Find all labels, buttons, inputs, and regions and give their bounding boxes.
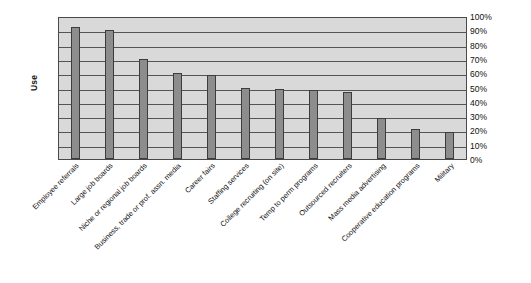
bar-chart: Use 100%90%80%70%60%50%40%30%20%10%0% Em… [0, 0, 531, 283]
bar-slot [296, 18, 330, 159]
bar [71, 27, 80, 159]
y-axis-tick-label: 60% [470, 70, 487, 79]
y-axis-tick-label: 10% [470, 141, 487, 150]
y-axis-tick-label: 70% [470, 55, 487, 64]
bar-slot [263, 18, 297, 159]
x-axis-category-labels: Employee referralsLarge job boardsNiche … [58, 162, 467, 280]
y-axis-tick-label: 80% [470, 41, 487, 50]
bar [275, 89, 284, 159]
bar [105, 30, 114, 159]
y-axis-tick-label: 0% [470, 156, 482, 165]
bar-slot [432, 18, 466, 159]
bar [207, 75, 216, 159]
y-axis-tick-label: 40% [470, 98, 487, 107]
bar [377, 118, 386, 159]
bar-slot [364, 18, 398, 159]
bar [445, 132, 454, 159]
bar-slot [330, 18, 364, 159]
y-axis-tick-labels: 100%90%80%70%60%50%40%30%20%10%0% [470, 17, 526, 160]
bar [241, 88, 250, 160]
bar-slot [127, 18, 161, 159]
y-axis-title: Use [29, 63, 39, 103]
bar [173, 73, 182, 159]
bar-slot [398, 18, 432, 159]
bar [139, 59, 148, 159]
bar [343, 92, 352, 159]
y-axis-tick-label: 100% [470, 13, 492, 22]
y-axis-tick-label: 30% [470, 113, 487, 122]
bar [411, 129, 420, 159]
bar-slot [161, 18, 195, 159]
y-axis-tick-label: 90% [470, 27, 487, 36]
y-axis-tick-label: 50% [470, 84, 487, 93]
y-axis-tick-label: 20% [470, 127, 487, 136]
plot-area [58, 17, 467, 160]
bar-slot [93, 18, 127, 159]
bar [309, 90, 318, 159]
bar-slot [59, 18, 93, 159]
bar-slot [229, 18, 263, 159]
bars-layer [59, 18, 466, 159]
bar-slot [195, 18, 229, 159]
